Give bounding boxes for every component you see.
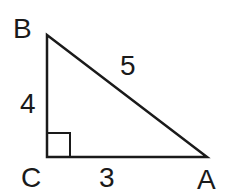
- vertex-label-a: A: [197, 164, 216, 193]
- triangle-diagram: B C A 4 3 5: [0, 0, 227, 193]
- right-angle-marker: [47, 133, 70, 157]
- side-label-ca: 3: [99, 162, 115, 193]
- vertex-label-b: B: [13, 13, 32, 44]
- vertex-label-c: C: [21, 162, 41, 193]
- side-label-ba: 5: [120, 50, 136, 81]
- side-label-bc: 4: [20, 88, 36, 119]
